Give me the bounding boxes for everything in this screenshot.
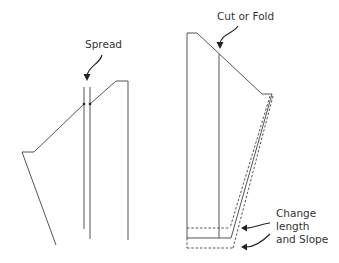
change-label-line1: Change (276, 207, 316, 219)
diagram-canvas: Spread Cut or Fold Change length and Slo… (0, 0, 339, 263)
spread-arrow-icon (84, 55, 103, 81)
spread-point-right (89, 103, 92, 106)
cut-or-fold-label: Cut or Fold (217, 10, 274, 22)
slope-line-inner (230, 96, 270, 228)
slope-line-outer (233, 96, 273, 248)
right-piece-outline (187, 33, 272, 238)
spread-point-left (83, 103, 86, 106)
right-pattern-piece (187, 33, 273, 248)
change-label-line2: length (276, 220, 309, 232)
change-slope-arrow-icon (241, 234, 270, 251)
left-piece-outline-left (22, 104, 84, 245)
change-label-line3: and Slope (276, 233, 328, 245)
change-length-arrow-icon (241, 223, 270, 232)
left-pattern-piece (22, 81, 128, 245)
left-piece-outline-right (90, 81, 128, 240)
cut-or-fold-arrow-icon (217, 26, 239, 49)
spread-label: Spread (85, 38, 122, 50)
